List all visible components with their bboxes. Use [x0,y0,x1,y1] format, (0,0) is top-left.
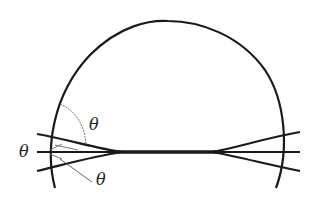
angle-ray-upper-ext [55,145,78,150]
left-upper-interface [37,134,122,152]
theta-label-left: θ [19,144,29,160]
drop-arc [51,21,284,188]
right-upper-interface [212,132,300,152]
right-lower-interface [212,152,300,171]
theta-label-top: θ [89,117,99,133]
diagram-canvas [0,0,315,200]
theta-label-bottom: θ [96,172,106,188]
